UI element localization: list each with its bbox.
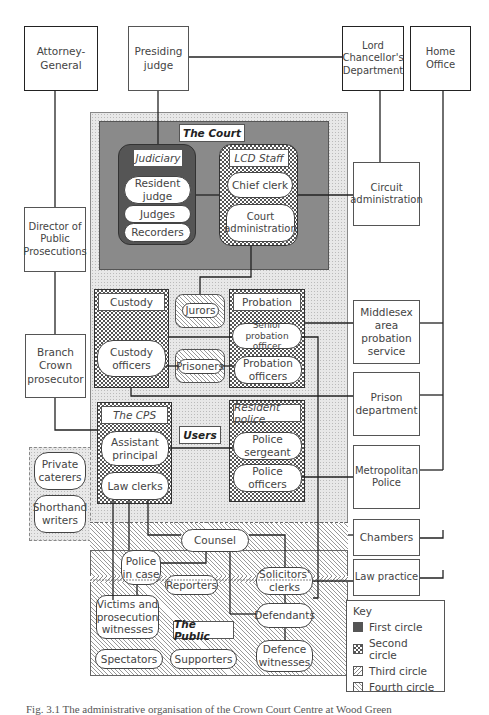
court-administration: Court administration bbox=[226, 204, 295, 242]
counsel: Counsel bbox=[181, 529, 249, 552]
police-in-case: Police in case bbox=[121, 550, 161, 585]
senior-probation-officer: Senior probation officer bbox=[232, 323, 302, 349]
defendants: Defendants bbox=[256, 603, 313, 628]
jurors: Jurors bbox=[182, 303, 219, 318]
users-title: Users bbox=[179, 426, 221, 444]
prisoners: Prisoners bbox=[178, 359, 222, 374]
first-circle-swatch-icon bbox=[353, 622, 363, 632]
defence-witnesses: Defence witnesses bbox=[256, 640, 313, 672]
met-police-box: Metropolitan Police bbox=[353, 445, 420, 509]
legend-item-fourth: Fourth circle bbox=[353, 681, 438, 693]
prison-dept-box: Prison department bbox=[353, 372, 420, 436]
reporters: Reporters bbox=[165, 575, 218, 595]
legend-item-second: Second circle bbox=[353, 637, 438, 661]
middlesex-box: Middlesex area probation service bbox=[353, 300, 420, 364]
branch-crown-box: Branch Crown prosecutor bbox=[25, 334, 86, 398]
court-title: The Court bbox=[179, 124, 245, 142]
judiciary-title: Judiciary bbox=[133, 149, 183, 167]
lcd-box: Lord Chancellor's Department bbox=[342, 26, 404, 91]
resident-judge: Resident judge bbox=[124, 176, 191, 204]
recorders: Recorders bbox=[124, 223, 191, 242]
probation-officers: Probation officers bbox=[234, 356, 302, 384]
custody-officers: Custody officers bbox=[97, 340, 166, 377]
cps-title: The CPS bbox=[101, 406, 168, 424]
judges: Judges bbox=[124, 205, 191, 223]
law-practice-box: Law practice bbox=[353, 559, 420, 596]
legend-title: Key bbox=[353, 605, 438, 617]
custody-title: Custody bbox=[98, 293, 165, 311]
police-officers: Police officers bbox=[233, 464, 302, 492]
probation-title: Probation bbox=[233, 293, 301, 311]
supporters: Supporters bbox=[170, 649, 237, 669]
chambers-box: Chambers bbox=[353, 519, 420, 556]
solicitors-clerks: Solicitors' clerks bbox=[256, 567, 313, 595]
attorney-general-box: Attorney-General bbox=[24, 26, 98, 91]
legend-item-first: First circle bbox=[353, 621, 438, 633]
spectators: Spectators bbox=[95, 649, 163, 669]
legend: Key First circle Second circle Third cir… bbox=[346, 600, 445, 692]
home-office-box: Home Office bbox=[410, 26, 471, 91]
second-circle-swatch-icon bbox=[353, 644, 363, 654]
fourth-circle-swatch-icon bbox=[353, 682, 363, 692]
assistant-principal: Assistant principal bbox=[101, 431, 169, 466]
third-circle-swatch-icon bbox=[353, 666, 363, 676]
lcd-staff-title: LCD Staff bbox=[229, 149, 289, 167]
victims-prosecution-witnesses: Victims and prosecution witnesses bbox=[96, 595, 159, 639]
private-caterers: Private caterers bbox=[34, 452, 86, 490]
presiding-judge-box: Presiding judge bbox=[128, 26, 189, 91]
dpp-box: Director of Public Prosecutions bbox=[24, 207, 86, 272]
public-title: The Public bbox=[173, 621, 234, 639]
shorthand-writers: Shorthand writers bbox=[34, 495, 86, 533]
legend-item-third: Third circle bbox=[353, 665, 438, 677]
figure-caption: Fig. 3.1 The administrative organisation… bbox=[26, 703, 392, 715]
chief-clerk: Chief clerk bbox=[227, 172, 293, 198]
law-clerks: Law clerks bbox=[101, 472, 169, 500]
circuit-admin-box: Circuit administration bbox=[353, 162, 420, 226]
police-sergeant: Police sergeant bbox=[233, 432, 302, 460]
resident-police-title: Resident police bbox=[233, 404, 301, 422]
